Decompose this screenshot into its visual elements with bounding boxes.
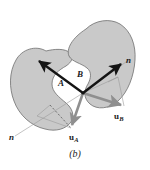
label-normal-left: n (9, 133, 14, 142)
label-point-a: A (58, 79, 64, 88)
figure-caption: (b) (0, 148, 150, 159)
label-velocity-b: uB (114, 112, 124, 123)
label-velocity-a-subscript: A (74, 136, 78, 143)
label-velocity-a: uA (69, 133, 79, 144)
label-velocity-b-subscript: B (119, 115, 123, 122)
contact-point-marker (81, 91, 84, 94)
label-point-b: B (77, 70, 83, 79)
label-normal-right: n (126, 56, 131, 65)
figure-drawing (0, 0, 150, 170)
figure-container: A B n n uA uB (b) (0, 0, 150, 170)
vector-velocity-a-line (72, 93, 83, 125)
